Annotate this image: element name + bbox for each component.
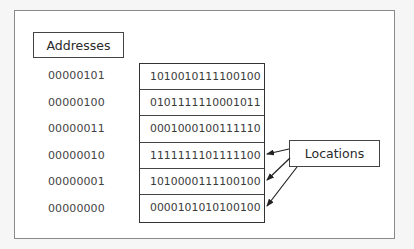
- memory-cell: 0000101010100100: [140, 195, 264, 221]
- locations-label-box: Locations: [289, 140, 380, 167]
- addresses-label: Addresses: [47, 38, 111, 53]
- address-list: 00000101 00000100 00000011 00000010 0000…: [34, 63, 124, 222]
- memory-cell: 1111111101111100: [140, 143, 264, 169]
- address-item: 00000001: [34, 169, 124, 196]
- address-item: 00000010: [34, 143, 124, 170]
- address-item: 00000101: [34, 63, 124, 90]
- locations-label: Locations: [305, 146, 364, 161]
- address-item: 00000100: [34, 90, 124, 117]
- memory-cell: 0001000100111110: [140, 116, 264, 142]
- memory-cell: 0101111110001011: [140, 90, 264, 116]
- address-item: 00000000: [34, 196, 124, 223]
- addresses-label-box: Addresses: [33, 32, 124, 58]
- address-item: 00000011: [34, 116, 124, 143]
- memory-locations-table: 1010010111100100 0101111110001011 000100…: [139, 63, 265, 223]
- memory-cell: 1010000111100100: [140, 169, 264, 195]
- memory-cell: 1010010111100100: [140, 64, 264, 90]
